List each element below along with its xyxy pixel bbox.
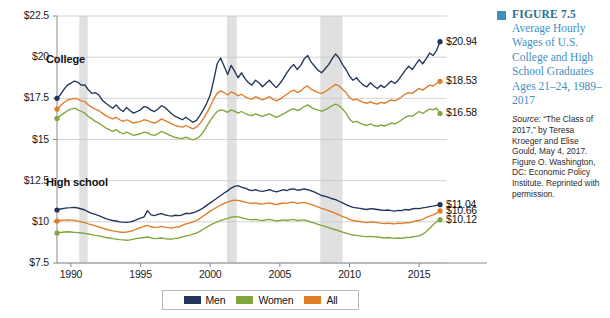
series-end-marker — [437, 79, 442, 84]
college-all-end-label: $18.53 — [446, 74, 477, 86]
series-line-college-all — [57, 81, 440, 128]
college-panel-label: College — [46, 53, 85, 65]
figure-source: Source: “The Class of 2017,” by Teresa K… — [512, 114, 605, 199]
series-end-marker — [437, 111, 442, 116]
x-axis-label: 1995 — [121, 268, 161, 280]
series-line-high-school-all — [57, 200, 440, 232]
x-axis-label: 2015 — [399, 268, 439, 280]
figure-source-prefix: Source: — [512, 114, 541, 124]
legend-label-all: All — [326, 294, 337, 306]
legend-swatch-women-icon — [236, 296, 253, 304]
series-start-marker — [54, 218, 59, 223]
legend-swatch-men-icon — [184, 296, 201, 304]
series-start-marker — [54, 207, 59, 212]
series-start-marker — [54, 96, 59, 101]
y-axis-label: $15 — [3, 133, 49, 145]
series-line-college-women — [57, 104, 440, 140]
series-line-college-men — [57, 42, 440, 123]
y-axis-label: $20 — [3, 50, 49, 62]
x-axis-label: 1990 — [51, 268, 91, 280]
x-axis-label: 2005 — [260, 268, 300, 280]
series-end-marker — [437, 202, 442, 207]
highschool-panel-label: High school — [46, 176, 108, 188]
figure-root: $7.5 $10 $12.5 $15 $17.5 $20 $22.5 1990 … — [0, 0, 610, 318]
series-line-high-school-men — [57, 186, 440, 223]
figure-title: Average Hourly Wages of U.S. College and… — [512, 21, 605, 107]
figure-heading: FIGURE 7.5 — [497, 8, 605, 20]
series-end-marker — [437, 208, 442, 213]
highschool-women-end-label: $10.12 — [446, 213, 477, 225]
chart-panel: $7.5 $10 $12.5 $15 $17.5 $20 $22.5 1990 … — [0, 0, 492, 318]
figure-bullet-square-icon — [497, 11, 506, 20]
legend-label-men: Men — [206, 294, 226, 306]
figure-number: FIGURE 7.5 — [512, 8, 576, 20]
y-axis-label: $12.5 — [3, 174, 49, 186]
series-end-marker — [437, 39, 442, 44]
series-start-marker — [54, 116, 59, 121]
figure-source-text: “The Class of 2017,” by Teresa Kroeger a… — [512, 114, 600, 198]
y-axis-label: $10 — [3, 215, 49, 227]
college-men-end-label: $20.94 — [446, 35, 477, 47]
x-axis-label: 2010 — [330, 268, 370, 280]
legend-item-all: All — [304, 294, 337, 306]
y-axis-label: $17.5 — [3, 91, 49, 103]
y-axis-label: $22.5 — [3, 9, 49, 21]
legend-item-men: Men — [184, 294, 226, 306]
y-axis-label: $7.5 — [3, 256, 49, 268]
legend-item-women: Women — [236, 294, 293, 306]
series-start-marker — [54, 230, 59, 235]
x-axis-label: 2000 — [190, 268, 230, 280]
figure-caption: FIGURE 7.5 Average Hourly Wages of U.S. … — [497, 8, 605, 199]
series-end-marker — [437, 217, 442, 222]
legend-swatch-all-icon — [304, 296, 321, 304]
series-start-marker — [54, 106, 59, 111]
chart-legend: Men Women All — [162, 290, 359, 310]
legend-label-women: Women — [258, 294, 293, 306]
college-women-end-label: $16.58 — [446, 106, 477, 118]
